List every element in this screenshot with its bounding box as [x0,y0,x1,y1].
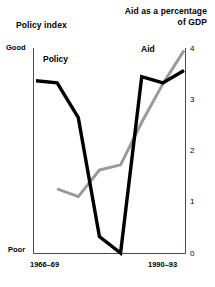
plot-area [0,0,215,287]
axis-frame [34,48,186,254]
series-line-aid [57,51,184,197]
chart-container: Policy index Aid as a percentageof GDP G… [0,0,215,287]
series-line-policy [36,71,184,253]
